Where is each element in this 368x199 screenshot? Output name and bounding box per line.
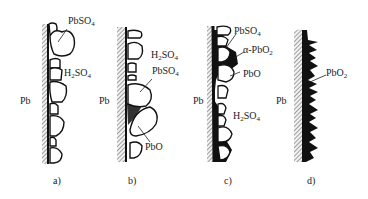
- label-pbo2-d: PbO2: [326, 68, 347, 78]
- label-h2so4-c: H2SO4: [233, 111, 260, 121]
- label-alpha-pbo2-c: α-PbO2: [243, 45, 273, 55]
- label-pbso4-a: PbSO4: [68, 16, 95, 26]
- label-pbo-b: PbO: [145, 142, 163, 152]
- pbo2-dendritic-layer: [302, 30, 318, 162]
- label-pbo-c: PbO: [243, 69, 261, 79]
- panel-d-drawing: [294, 29, 326, 162]
- panel-a-drawing: [42, 23, 75, 164]
- label-pb-b: Pb: [99, 96, 110, 106]
- caption-d: d): [307, 176, 315, 186]
- panel-c-drawing: [207, 26, 244, 162]
- diagram-canvas: [0, 0, 368, 199]
- label-h2so4-a: H2SO4: [64, 68, 91, 78]
- label-pb-a: Pb: [20, 96, 31, 106]
- caption-a: a): [53, 176, 61, 186]
- label-pbso4-c: PbSO4: [234, 26, 261, 36]
- label-h2so4-b: H2SO4: [151, 50, 178, 60]
- caption-b: b): [128, 176, 136, 186]
- label-pbso4-b: PbSO4: [152, 66, 179, 76]
- lead-substrate: [117, 27, 126, 162]
- lead-substrate: [294, 29, 302, 162]
- pbso4-crystals: [49, 23, 75, 163]
- label-pb-c: Pb: [193, 96, 204, 106]
- caption-c: c): [224, 176, 232, 186]
- label-pb-d: Pb: [276, 96, 287, 106]
